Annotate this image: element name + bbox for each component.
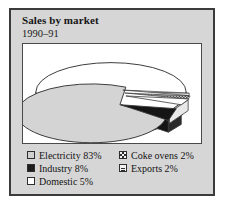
legend-swatch-coke-ovens [119,151,127,159]
pie-slice-electricity [23,84,166,143]
legend-item-industry: Industry 8% [27,162,113,174]
legend-item-electricity: Electricity 83% [27,149,113,161]
legend-label-industry: Industry 8% [39,163,88,174]
legend-label-electricity: Electricity 83% [39,150,101,161]
chart-figure-frame: Sales by market 1990–91 [9,8,215,196]
legend-label-exports: Exports 2% [131,163,178,174]
pie-chart [23,44,201,143]
legend-label-domestic: Domestic 5% [39,176,93,187]
legend-swatch-electricity [27,151,35,159]
plot-area [22,43,202,144]
chart-legend: Electricity 83% Industry 8% Domestic 5% … [27,149,207,187]
legend-item-coke-ovens: Coke ovens 2% [119,149,207,161]
legend-swatch-domestic [27,177,35,185]
page-title: Sales by market [22,15,99,27]
chart-title-block: Sales by market 1990–91 [22,15,99,39]
legend-column-right: Coke ovens 2% Exports 2% [119,149,207,174]
legend-label-coke-ovens: Coke ovens 2% [131,150,194,161]
chart-subtitle: 1990–91 [22,28,99,39]
legend-swatch-industry [27,164,35,172]
legend-item-domestic: Domestic 5% [27,175,113,187]
legend-column-left: Electricity 83% Industry 8% Domestic 5% [27,149,113,187]
legend-swatch-exports [119,164,127,172]
legend-item-exports: Exports 2% [119,162,207,174]
